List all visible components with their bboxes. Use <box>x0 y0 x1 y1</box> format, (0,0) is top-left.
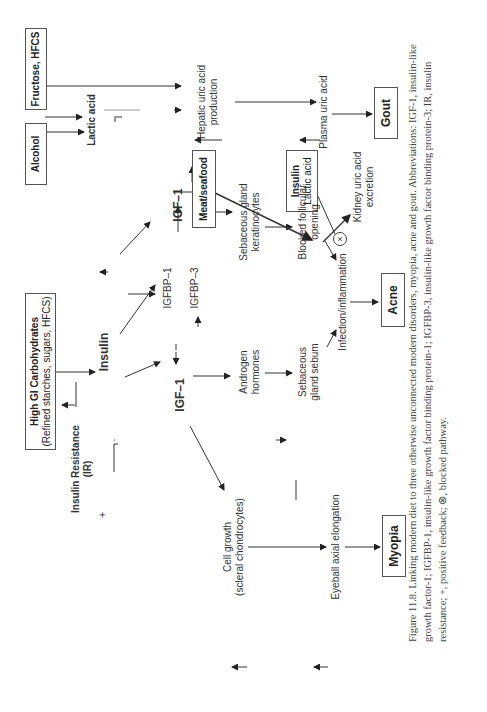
meat-seafood-box: Meat/seafood <box>192 150 216 228</box>
plasma-label: Plasma uric acid <box>318 75 329 148</box>
androgen-line1: Androgen <box>238 337 250 407</box>
acne-label: Acne <box>386 285 400 314</box>
alcohol-box: Alcohol <box>25 123 47 185</box>
hepatic-uric-acid-node: Hepatic uric acid production <box>196 57 219 147</box>
androgen-line2: hormones <box>250 337 262 407</box>
gout-label: Gout <box>379 99 393 127</box>
high-gi-carbohydrates-box: High GI Carbohydrates (Refined starches,… <box>25 293 56 450</box>
kidney-line2: excretion <box>364 142 376 232</box>
follicular-line1: Blocked follicular <box>297 172 309 272</box>
blocked-follicular-node: Blocked follicular opening <box>297 172 320 272</box>
hepatic-line2: production <box>208 57 220 147</box>
hepatic-line1: Hepatic uric acid <box>196 57 208 147</box>
blocked-symbol: × <box>335 236 345 241</box>
infection-label: Infection/inflammation <box>337 253 348 350</box>
meat-label: Meat/seafood <box>198 157 210 221</box>
plasma-uric-acid-node: Plasma uric acid <box>318 72 330 152</box>
eyeball-label: Eyeball axial elongation <box>330 494 341 599</box>
figure-caption: Figure 11.8. Linking modern diet to thre… <box>405 42 451 642</box>
igfbp1-node: IGFBP–1 <box>162 259 174 317</box>
igf1-right-label: IGF–1 <box>171 188 185 221</box>
fructose-hfcs-box: Fructose, HFCS <box>25 28 47 110</box>
cell-growth-line1: Cell growth <box>222 482 234 612</box>
ir-line2: (IR) <box>82 414 94 524</box>
myopia-label: Myopia <box>387 525 401 566</box>
plus-label: + <box>96 512 108 518</box>
insulin-label: Insulin <box>97 333 111 372</box>
igf1-left-node: IGF–1 <box>174 374 188 416</box>
alcohol-label: Alcohol <box>30 136 42 173</box>
sebaceous-sebum-node: Sebaceous gland sebum <box>297 332 320 412</box>
igf1-right-node: IGF–1 <box>172 184 186 226</box>
fructose-label: Fructose, HFCS <box>30 32 42 107</box>
igf1-left-label: IGF–1 <box>173 378 187 411</box>
sebum-line2: gland sebum <box>309 332 321 412</box>
sebum-line1: Sebaceous <box>297 332 309 412</box>
cell-growth-node: Cell growth (scleral chondrocytes) <box>222 482 245 612</box>
follicular-line2: opening <box>309 172 321 272</box>
kidney-line1: Kidney uric acid <box>352 142 364 232</box>
caption-text: Figure 11.8. Linking modern diet to thre… <box>407 44 448 642</box>
blocked-pathway-icon: × <box>333 232 347 246</box>
sebaceous-keratinocytes-node: Sebaceous gland keratinocytes <box>238 177 261 267</box>
high-gi-subtitle: (Refined starches, sugars, HFCS) <box>41 296 53 446</box>
igfbp3-node: IGFBP–3 <box>189 259 201 317</box>
infection-inflammation-node: Infection/inflammation <box>337 247 349 357</box>
keratinocytes-line2: keratinocytes <box>250 177 262 267</box>
gout-box: Gout <box>374 87 398 139</box>
insulin-resistance-node: Insulin Resistance (IR) <box>70 414 93 524</box>
lactic-acid-label: Lactic acid <box>86 94 97 146</box>
acne-box: Acne <box>381 273 405 327</box>
igfbp1-label: IGFBP–1 <box>162 267 173 308</box>
eyeball-elongation-node: Eyeball axial elongation <box>330 482 342 612</box>
cell-growth-line2: (scleral chondrocytes) <box>234 482 246 612</box>
kidney-uric-acid-node: Kidney uric acid excretion <box>352 142 375 232</box>
androgen-hormones-node: Androgen hormones <box>238 337 261 407</box>
lactic-acid-node: Lactic acid <box>86 88 98 152</box>
insulin-node: Insulin <box>98 327 112 377</box>
positive-feedback-symbol: + <box>96 512 108 518</box>
ir-line1: Insulin Resistance <box>70 414 82 524</box>
high-gi-title: High GI Carbohydrates <box>29 317 41 426</box>
rotated-figure-page: High GI Carbohydrates (Refined starches,… <box>0 0 487 712</box>
keratinocytes-line1: Sebaceous gland <box>238 177 250 267</box>
igfbp3-label: IGFBP–3 <box>189 267 200 308</box>
myopia-box: Myopia <box>382 515 406 577</box>
